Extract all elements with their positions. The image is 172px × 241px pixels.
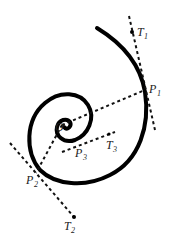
spiral-curve <box>29 28 146 183</box>
label-p3: P 3 <box>74 146 87 162</box>
svg-text:P: P <box>25 173 34 187</box>
svg-text:1: 1 <box>144 32 148 41</box>
label-p2: P 2 <box>25 173 38 189</box>
svg-text:3: 3 <box>82 153 87 162</box>
label-p1: P 1 <box>148 82 161 98</box>
label-o: O <box>55 120 64 134</box>
label-t1: T 1 <box>137 25 148 41</box>
svg-text:2: 2 <box>71 226 75 235</box>
label-t2: T 2 <box>64 219 75 235</box>
point-t1 <box>130 30 134 34</box>
spiral-diagram: T 1 P 1 O P 3 T 3 P 2 T 2 <box>0 0 172 241</box>
label-t3: T 3 <box>106 138 117 154</box>
point-t2 <box>72 215 76 219</box>
svg-text:1: 1 <box>157 89 161 98</box>
tangent-p2 <box>10 143 74 217</box>
svg-text:3: 3 <box>112 145 117 154</box>
svg-text:P: P <box>148 82 157 96</box>
point-t3 <box>107 132 110 135</box>
svg-text:P: P <box>74 146 83 160</box>
svg-text:2: 2 <box>34 180 38 189</box>
svg-text:O: O <box>55 120 64 134</box>
